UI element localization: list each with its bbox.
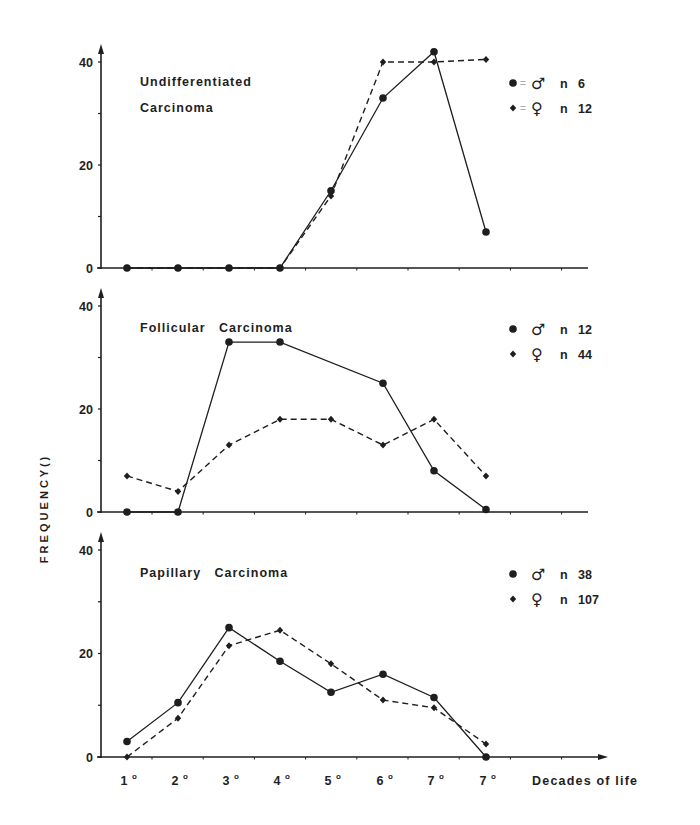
data-point-female [483,56,489,63]
legend-item-female: =♀n 12 [510,99,592,118]
data-point-female [226,642,232,649]
x-tick-label: 5 [325,774,332,788]
legend-count: n 6 [560,77,585,91]
legend-count: n 12 [560,323,592,337]
female-symbol-icon: ♀ [531,345,543,364]
series-line-female [127,419,486,491]
x-tick-label: 2 [172,774,179,788]
degree-mark: o [285,772,290,781]
legend-item-male: ♂n 38 [509,565,592,584]
data-point-female [380,442,386,449]
male-symbol-icon: ♂ [531,565,545,584]
y-axis-arrow-icon [98,288,104,298]
x-tick-label: 7 [480,774,487,788]
panel-title: Carcinoma [140,101,214,115]
legend-circle-icon [509,570,517,578]
legend-item-female: ♀n 44 [510,345,592,364]
legend-item-female: ♀n 107 [510,590,599,609]
female-symbol-icon: ♀ [531,590,543,609]
data-point-male [379,94,387,102]
y-tick-label: 0 [86,506,93,520]
panel-title: Follicular Carcinoma [140,321,293,335]
legend-count: n 107 [560,593,599,607]
x-tick-label: 1 [121,774,128,788]
legend-diamond-icon [510,596,516,603]
data-point-female [277,627,283,634]
legend-circle-icon [509,79,517,87]
legend-count: n 44 [560,348,592,362]
data-point-female [380,697,386,704]
series-line-female [127,59,486,268]
panel-title: Papillary Carcinoma [140,566,288,580]
data-point-female [277,416,283,423]
x-tick-label: 4 [274,774,281,788]
y-axis-label: F R E Q U E N C Y ( ) [38,456,50,563]
data-point-male [276,657,284,665]
data-point-female [175,488,181,495]
data-point-female [431,704,437,711]
legend-circle-icon [509,325,517,333]
y-tick-label: 40 [79,56,93,70]
panel-follicular-carcinoma: 02040Follicular Carcinoma♂n 12♀n 44 [79,288,592,520]
data-point-female [226,442,232,449]
legend-item-male: =♂n 6 [509,74,585,93]
data-point-female [380,59,386,66]
legend-count: n 12 [560,102,592,116]
series-line-female [127,630,486,757]
panel-papillary-carcinoma: 02040Papillary Carcinoma♂n 38♀n 107 [79,532,608,765]
y-axis-arrow-icon [98,44,104,54]
series-line-male [127,342,486,512]
x-tick-label: 7 [428,774,435,788]
svg-text:=: = [520,103,526,114]
data-point-female [328,660,334,667]
data-point-male [379,379,387,387]
data-point-male [123,508,131,516]
data-point-male [174,508,182,516]
frequency-by-decade-chart: 02040UndifferentiatedCarcinoma=♂n 6=♀n 1… [0,0,700,825]
male-symbol-icon: ♂ [531,74,545,93]
panel-undifferentiated-carcinoma: 02040UndifferentiatedCarcinoma=♂n 6=♀n 1… [79,44,592,276]
x-axis-arrow-icon [598,754,608,760]
x-axis-label: Decades of life [532,774,638,788]
degree-mark: o [491,772,496,781]
y-tick-label: 20 [79,647,93,661]
data-point-male [225,624,233,632]
data-point-male [482,753,490,761]
degree-mark: o [336,772,341,781]
data-point-male [379,670,387,678]
degree-mark: o [439,772,444,781]
svg-text:=: = [520,78,526,89]
x-tick-label: 6 [377,774,384,788]
data-point-male [276,338,284,346]
degree-mark: o [183,772,188,781]
legend-diamond-icon [510,105,516,112]
y-tick-label: 0 [86,751,93,765]
data-point-male [327,689,335,697]
y-tick-label: 40 [79,544,93,558]
degree-mark: o [132,772,137,781]
data-point-male [225,338,233,346]
y-tick-label: 40 [79,300,93,314]
male-symbol-icon: ♂ [531,320,545,339]
data-point-female [483,741,489,748]
data-point-male [174,699,182,707]
panel-title: Undifferentiated [140,75,252,89]
female-symbol-icon: ♀ [531,99,543,118]
x-tick-label: 3 [223,774,230,788]
data-point-female [328,416,334,423]
series-line-male [127,628,486,757]
data-point-female [124,472,130,479]
legend-count: n 38 [560,568,592,582]
degree-mark: o [388,772,393,781]
data-point-male [482,228,490,236]
data-point-male [430,467,438,475]
y-tick-label: 20 [79,403,93,417]
y-tick-label: 0 [86,262,93,276]
data-point-female [431,416,437,423]
data-point-female [483,472,489,479]
legend-diamond-icon [510,351,516,358]
legend-item-male: ♂n 12 [509,320,592,339]
y-tick-label: 20 [79,159,93,173]
y-axis-arrow-icon [98,532,104,542]
data-point-male [430,48,438,56]
